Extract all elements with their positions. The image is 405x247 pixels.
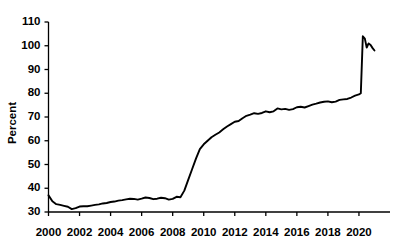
x-tick-label: 2002 [67,226,93,238]
y-tick-label: 40 [28,181,41,193]
x-tick-label: 2000 [36,226,62,238]
x-tick-label: 2016 [284,226,310,238]
y-tick-label: 80 [28,86,41,98]
y-axis-title: Percent [6,102,18,144]
x-tick-label: 2010 [191,226,217,238]
y-tick-label: 30 [28,205,41,217]
y-tick-label: 90 [28,63,41,75]
y-tick-label: 70 [28,110,41,122]
line-chart: Percent 30405060708090100110 20002002200… [0,0,405,247]
x-tick-label: 2006 [129,226,155,238]
chart-container: Percent 30405060708090100110 20002002200… [0,0,405,247]
x-tick-label: 2008 [160,226,186,238]
y-tick-label: 100 [21,39,40,51]
x-tick-label: 2012 [222,226,248,238]
y-tick-label: 110 [22,15,41,27]
x-tick-label: 2004 [98,226,124,238]
y-tick-label: 50 [28,158,41,170]
x-tick-label: 2014 [253,226,279,238]
x-tick-label: 2020 [346,226,372,238]
y-tick-label: 60 [28,134,41,146]
chart-background [0,0,405,247]
x-tick-label: 2018 [315,226,341,238]
